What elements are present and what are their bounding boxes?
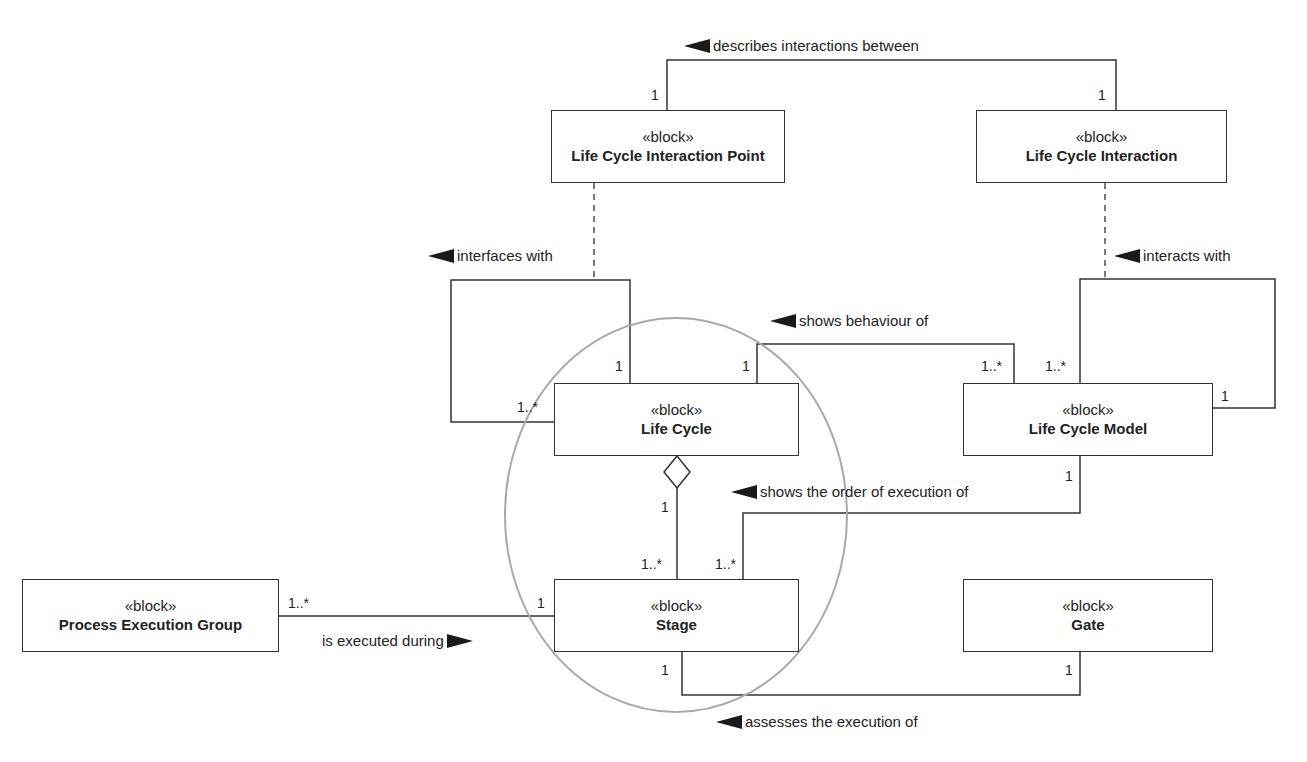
block-life-cycle-interaction[interactable]: «block» Life Cycle Interaction <box>976 110 1227 183</box>
block-name: Life Cycle Interaction <box>1026 146 1178 166</box>
block-gate[interactable]: «block» Gate <box>963 579 1213 652</box>
direction-arrow-left-icon <box>770 314 796 328</box>
mult-interfaces-top: 1 <box>615 359 623 373</box>
mult-assesses-stage: 1 <box>661 663 669 677</box>
block-life-cycle-interaction-point[interactable]: «block» Life Cycle Interaction Point <box>551 110 785 183</box>
label-behaviour: shows behaviour of <box>770 313 928 329</box>
stereotype-label: «block» <box>651 400 703 419</box>
block-name: Life Cycle <box>641 419 712 439</box>
block-name: Gate <box>1071 615 1104 635</box>
stereotype-label: «block» <box>1062 596 1114 615</box>
direction-arrow-left-icon <box>716 715 742 729</box>
label-order: shows the order of execution of <box>731 484 968 500</box>
label-assesses: assesses the execution of <box>716 714 918 730</box>
mult-assesses-gate: 1 <box>1065 663 1073 677</box>
stereotype-label: «block» <box>1076 127 1128 146</box>
aggregation-diamond <box>664 456 690 488</box>
mult-executed-stage: 1 <box>537 596 545 610</box>
mult-aggregation-part: 1..* <box>641 557 662 571</box>
stereotype-label: «block» <box>125 596 177 615</box>
mult-describes-lci: 1 <box>1098 88 1106 102</box>
mult-describes-lcip: 1 <box>651 88 659 102</box>
stereotype-label: «block» <box>651 596 703 615</box>
block-name: Life Cycle Model <box>1029 419 1147 439</box>
mult-interacts-right: 1 <box>1221 389 1229 403</box>
block-stage[interactable]: «block» Stage <box>554 579 799 652</box>
mult-aggregation-whole: 1 <box>661 500 669 514</box>
mult-interfaces-left: 1..* <box>517 400 538 414</box>
label-describes: describes interactions between <box>684 38 919 54</box>
block-life-cycle-model[interactable]: «block» Life Cycle Model <box>963 383 1213 456</box>
block-name: Stage <box>656 615 697 635</box>
label-executed: is executed during <box>322 633 473 649</box>
mult-interacts-top: 1..* <box>1045 359 1066 373</box>
direction-arrow-left-icon <box>684 39 710 53</box>
stereotype-label: «block» <box>642 127 694 146</box>
block-name: Life Cycle Interaction Point <box>571 146 764 166</box>
block-name: Process Execution Group <box>59 615 242 635</box>
association-assesses-line <box>682 651 1080 695</box>
association-describes-line <box>667 60 1116 110</box>
direction-arrow-right-icon <box>447 634 473 648</box>
direction-arrow-left-icon <box>731 485 757 499</box>
mult-order-stage: 1..* <box>715 557 736 571</box>
block-life-cycle[interactable]: «block» Life Cycle <box>554 383 799 456</box>
association-order-line <box>743 455 1080 579</box>
label-interacts: interacts with <box>1114 248 1231 264</box>
mult-order-lcm: 1 <box>1065 469 1073 483</box>
highlight-circle <box>505 318 847 712</box>
block-process-execution-group[interactable]: «block» Process Execution Group <box>22 579 279 652</box>
mult-behaviour-lcm: 1..* <box>981 359 1002 373</box>
direction-arrow-left-icon <box>1114 249 1140 263</box>
mult-executed-peg: 1..* <box>288 596 309 610</box>
stereotype-label: «block» <box>1062 400 1114 419</box>
mult-behaviour-lc: 1 <box>742 359 750 373</box>
direction-arrow-left-icon <box>428 249 454 263</box>
label-interfaces: interfaces with <box>428 248 553 264</box>
association-behaviour-line <box>757 344 1014 383</box>
